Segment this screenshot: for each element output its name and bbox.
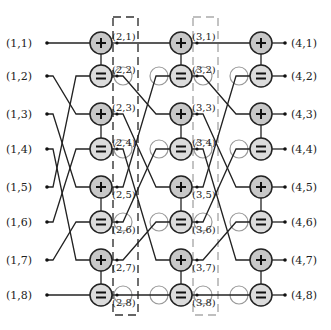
input-label: (1,7) <box>6 254 32 267</box>
equality-node <box>170 138 192 160</box>
equality-node <box>250 284 272 306</box>
input-dot <box>45 293 49 297</box>
stage-label: (2,6) <box>112 224 136 235</box>
xor-node <box>170 103 192 125</box>
stage-label: (2,7) <box>112 262 136 273</box>
equal-circle <box>170 284 192 306</box>
stage-label: (2,4) <box>112 137 136 148</box>
stage-label: (3,4) <box>192 137 216 148</box>
wire <box>47 222 90 260</box>
stage-label: (3,3) <box>192 102 216 113</box>
output-dot <box>283 112 287 116</box>
xor-node <box>250 249 272 271</box>
equal-circle <box>250 284 272 306</box>
input-dot <box>45 112 49 116</box>
input-label: (1,4) <box>6 143 32 156</box>
output-label: (4,2) <box>291 70 317 83</box>
stage-label: (3,5) <box>192 189 216 200</box>
input-dot <box>45 220 49 224</box>
butterfly-diagram: (2,1)(2,2)(2,3)(2,4)(2,5)(2,6)(2,7)(2,8)… <box>0 0 331 330</box>
wire <box>197 149 250 260</box>
equal-circle <box>90 211 112 233</box>
xor-node <box>170 249 192 271</box>
input-dot <box>45 41 49 45</box>
input-dot <box>45 74 49 78</box>
equality-node <box>90 65 112 87</box>
equal-circle <box>250 138 272 160</box>
wire <box>197 76 250 187</box>
stage-label: (3,6) <box>192 224 216 235</box>
input-label: (1,3) <box>6 108 32 121</box>
output-dot <box>283 220 287 224</box>
xor-node <box>170 176 192 198</box>
output-dot <box>283 258 287 262</box>
equal-circle <box>90 138 112 160</box>
stage-label: (2,5) <box>112 189 136 200</box>
stage-label: (2,1) <box>112 31 136 42</box>
equal-circle <box>250 65 272 87</box>
equality-node <box>90 138 112 160</box>
equality-node <box>170 284 192 306</box>
output-dot <box>283 74 287 78</box>
xor-node <box>250 32 272 54</box>
output-label: (4,4) <box>291 143 317 156</box>
input-dot <box>45 258 49 262</box>
equality-node <box>170 65 192 87</box>
xor-node <box>90 32 112 54</box>
xor-node <box>90 249 112 271</box>
wire <box>117 76 170 187</box>
input-dot <box>45 147 49 151</box>
output-label: (4,7) <box>291 254 317 267</box>
stage-label: (2,8) <box>112 297 136 308</box>
input-label: (1,6) <box>6 216 32 229</box>
equality-node <box>170 211 192 233</box>
equality-node <box>250 211 272 233</box>
output-dot <box>283 293 287 297</box>
input-label: (1,2) <box>6 70 32 83</box>
xor-node <box>170 32 192 54</box>
wire <box>47 149 90 260</box>
input-label: (1,1) <box>6 37 32 50</box>
xor-node <box>90 103 112 125</box>
equality-node <box>250 65 272 87</box>
input-label: (1,5) <box>6 181 32 194</box>
equal-circle <box>170 65 192 87</box>
input-dot <box>45 185 49 189</box>
equal-circle <box>170 138 192 160</box>
wire <box>117 149 170 260</box>
equal-circle <box>250 211 272 233</box>
equal-circle <box>90 65 112 87</box>
output-dot <box>283 185 287 189</box>
stage-label: (2,3) <box>112 102 136 113</box>
stage-label: (3,7) <box>192 262 216 273</box>
xor-node <box>90 176 112 198</box>
input-label: (1,8) <box>6 289 32 302</box>
wire <box>47 76 90 114</box>
equal-circle <box>90 284 112 306</box>
output-label: (4,3) <box>291 108 317 121</box>
output-dot <box>283 147 287 151</box>
output-label: (4,8) <box>291 289 317 302</box>
xor-node <box>250 103 272 125</box>
wire <box>47 76 90 187</box>
output-label: (4,6) <box>291 216 317 229</box>
xor-node <box>250 176 272 198</box>
stage-label: (3,2) <box>192 64 216 75</box>
stage-label: (3,8) <box>192 297 216 308</box>
stage-label: (2,2) <box>112 64 136 75</box>
equality-node <box>90 211 112 233</box>
equality-node <box>90 284 112 306</box>
output-label: (4,5) <box>291 181 317 194</box>
equality-node <box>250 138 272 160</box>
diagram-canvas: (2,1)(2,2)(2,3)(2,4)(2,5)(2,6)(2,7)(2,8)… <box>0 0 331 330</box>
stage-label: (3,1) <box>192 31 216 42</box>
equal-circle <box>170 211 192 233</box>
output-dot <box>283 41 287 45</box>
output-label: (4,1) <box>291 37 317 50</box>
